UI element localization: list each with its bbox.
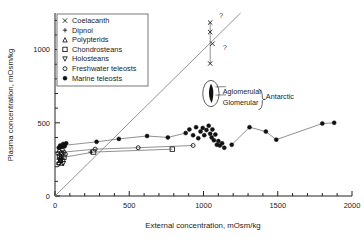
connector-line: [232, 123, 334, 145]
data-point-marine-teleosts: [145, 134, 149, 138]
data-point-marine-teleosts: [332, 121, 336, 125]
data-point-marine-teleosts: [199, 130, 203, 134]
data-point-marine-teleosts: [222, 146, 226, 150]
query-lower: ?: [223, 43, 227, 52]
data-point-marine-teleosts: [187, 127, 191, 131]
x-axis-ticks: [55, 191, 352, 196]
data-point-dipnoi: [88, 150, 92, 154]
data-point-marine-teleosts: [64, 141, 68, 145]
legend-label-holosteans: Holosteans: [72, 54, 109, 63]
data-point-marine-teleosts: [184, 131, 188, 135]
x-tick-label: 500: [123, 201, 136, 210]
data-point-marine-teleosts: [202, 133, 206, 137]
data-point-marine-teleosts: [166, 135, 170, 139]
legend-label-coelacanth: Coelacanth: [72, 16, 109, 25]
query-upper: ?: [219, 11, 223, 20]
figure-container: 0500100015002000 05001000 External conce…: [0, 0, 364, 239]
annotation-labels: AglomerularGlomerularAntarctic??: [219, 11, 294, 107]
data-point-marine-teleosts: [191, 133, 195, 137]
data-point-legend: [63, 76, 67, 80]
data-point-marine-teleosts: [248, 125, 252, 129]
x-axis-title: External concentration, mOsm/kg: [145, 221, 260, 230]
antarctic-label: Antarctic: [266, 92, 294, 101]
y-tick-label: 0: [46, 192, 50, 201]
legend[interactable]: CoelacanthDipnoiPolypteridsChondrosteans…: [57, 14, 148, 86]
y-tick-label: 1000: [33, 45, 50, 54]
data-point-marine-teleosts: [230, 143, 234, 147]
data-point-marine-teleosts: [194, 125, 198, 129]
x-axis-tick-labels: 0500100015002000: [53, 201, 360, 210]
x-tick-label: 2000: [344, 201, 361, 210]
data-point-coelacanth: [210, 42, 214, 46]
legend-label-marine-teleosts: Marine teleosts: [72, 74, 122, 83]
legend-label-polypterids: Polypterids: [72, 35, 109, 44]
data-point-marine-teleosts: [216, 139, 220, 143]
series-marine-teleosts: [57, 121, 336, 150]
data-point-marine-teleosts: [196, 136, 200, 140]
data-point-marine-teleosts: [264, 130, 268, 134]
data-point-marine-teleosts: [208, 132, 212, 136]
aglomerular-label: Aglomerular: [223, 87, 262, 96]
data-point-marine-teleosts: [212, 138, 216, 142]
series-chondrosteans: [57, 147, 174, 159]
y-tick-label: 500: [37, 119, 50, 128]
legend-label-chondrosteans: Chondrosteans: [72, 45, 122, 54]
data-point-marine-teleosts: [207, 124, 211, 128]
data-point-marine-teleosts: [274, 138, 278, 142]
data-point-marine-teleosts: [201, 126, 205, 130]
series-coelacanth: [208, 20, 215, 65]
data-point-marine-teleosts: [213, 133, 217, 137]
x-tick-label: 1000: [195, 201, 212, 210]
glomerular-label: Glomerular: [223, 98, 259, 107]
data-point-marine-teleosts: [220, 141, 224, 145]
data-point-marine-teleosts: [320, 122, 324, 126]
x-tick-label: 0: [53, 201, 57, 210]
cluster-blob: [209, 84, 213, 103]
scatter-plot: 0500100015002000 05001000 External conce…: [0, 0, 364, 239]
legend-label-dipnoi: Dipnoi: [72, 26, 93, 35]
data-point-marine-teleosts: [117, 137, 121, 141]
data-point-marine-teleosts: [210, 127, 214, 131]
data-point-marine-teleosts: [204, 128, 208, 132]
y-axis-title: Plasma concentration, mOsm/kg: [6, 49, 15, 162]
y-axis-tick-labels: 05001000: [33, 45, 50, 200]
x-tick-label: 1500: [269, 201, 286, 210]
legend-label-freshwater-teleosts: Freshwater teleosts: [72, 64, 137, 73]
data-point-marine-teleosts: [95, 140, 99, 144]
